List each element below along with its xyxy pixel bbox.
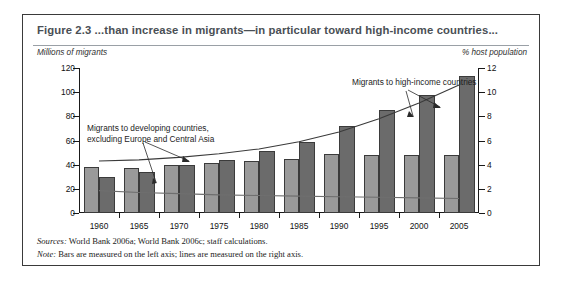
x-axis-tick-label: 1980 — [237, 221, 281, 231]
x-axis-tick — [199, 213, 200, 218]
x-axis-tick-label: 1960 — [77, 221, 121, 231]
left-axis-tick-label: 20 — [35, 184, 75, 194]
left-axis-tick-label: 120 — [35, 63, 75, 73]
sources-text: Sources: World Bank 2006a; World Bank 20… — [37, 236, 268, 246]
x-axis-tick-label: 1995 — [357, 221, 401, 231]
x-axis-tick — [399, 213, 400, 218]
left-axis-tick-label: 60 — [35, 136, 75, 146]
right-axis-tick — [479, 68, 485, 69]
right-axis-tick — [479, 92, 485, 93]
left-axis-tick-label: 80 — [35, 111, 75, 121]
x-axis-tick — [119, 213, 120, 218]
x-axis-tick-label: 1965 — [117, 221, 161, 231]
annotation-high-income-countries: Migrants to high-income countries — [352, 77, 477, 88]
right-axis-tick-label: 8 — [487, 111, 517, 121]
sources-body: World Bank 2006a; World Bank 2006c; staf… — [67, 236, 268, 246]
x-axis-tick-label: 2005 — [437, 221, 481, 231]
right-axis-tick-label: 2 — [487, 184, 517, 194]
right-axis-tick-label: 4 — [487, 160, 517, 170]
note-text: Note: Bars are measured on the left axis… — [37, 249, 303, 259]
x-axis-tick — [359, 213, 360, 218]
right-axis-tick-label: 6 — [487, 136, 517, 146]
note-label: Note: — [37, 249, 56, 259]
title-divider — [33, 45, 529, 46]
figure-container: Figure 2.3 ...than increase in migrants—… — [22, 14, 540, 266]
left-axis-title: Millions of migrants — [37, 48, 107, 57]
annotation-developing-countries: Migrants to developing countries, exclud… — [87, 123, 214, 144]
right-axis-tick — [479, 165, 485, 166]
note-body: Bars are measured on the left axis; line… — [56, 249, 303, 259]
x-axis-tick-label: 1970 — [157, 221, 201, 231]
annotation-developing-line2: excluding Europe and Central Asia — [87, 134, 214, 145]
sources-label: Sources: — [37, 236, 67, 246]
x-axis-tick — [239, 213, 240, 218]
x-axis-tick-label: 2000 — [397, 221, 441, 231]
line-series — [99, 191, 459, 199]
right-axis-tick — [479, 141, 485, 142]
x-axis-tick — [279, 213, 280, 218]
left-axis-tick-label: 100 — [35, 87, 75, 97]
right-axis-tick — [479, 116, 485, 117]
x-axis-tick-label: 1985 — [277, 221, 321, 231]
right-axis-tick-label: 0 — [487, 208, 517, 218]
figure-title: Figure 2.3 ...than increase in migrants—… — [37, 24, 527, 36]
left-axis-tick-label: 0 — [35, 208, 75, 218]
x-axis-tick — [159, 213, 160, 218]
right-axis-tick-label: 12 — [487, 63, 517, 73]
x-axis-tick — [439, 213, 440, 218]
right-axis-tick — [479, 189, 485, 190]
annotation-developing-line1: Migrants to developing countries, — [87, 123, 214, 134]
right-axis-title: % host population — [462, 48, 527, 57]
right-axis-tick — [479, 213, 485, 214]
right-axis-tick-label: 10 — [487, 87, 517, 97]
x-axis-tick — [319, 213, 320, 218]
annotation-high-income-line1: Migrants to high-income countries — [352, 77, 477, 88]
left-axis-tick-label: 40 — [35, 160, 75, 170]
x-axis-tick-label: 1990 — [317, 221, 361, 231]
x-axis-tick-label: 1975 — [197, 221, 241, 231]
